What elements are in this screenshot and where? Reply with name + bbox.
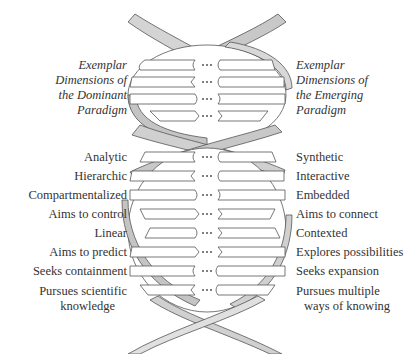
emerging-paradigm-header: Exemplar Dimensions of the Emerging Para…: [296, 58, 368, 118]
header-line: Dimensions of: [55, 73, 127, 88]
dominant-item: Analytic: [28, 148, 127, 167]
dominant-item: Compartmentalized: [28, 186, 127, 205]
emerging-item: Seeks expansion: [296, 262, 403, 281]
dominant-item: Hierarchic: [28, 167, 127, 186]
emerging-item: Contexted: [296, 224, 403, 243]
dominant-paradigm-header: Exemplar Dimensions of the Dominant Para…: [55, 58, 127, 118]
header-line: Exemplar: [55, 58, 127, 73]
dominant-item: Aims to predict: [28, 243, 127, 262]
header-line: Exemplar: [296, 58, 368, 73]
emerging-item: Interactive: [296, 167, 403, 186]
dominant-item: Aims to control: [28, 205, 127, 224]
header-line: the Emerging: [296, 88, 368, 103]
item-line: ways of knowing: [296, 299, 403, 314]
emerging-item: Synthetic: [296, 148, 403, 167]
header-line: the Dominant: [55, 88, 127, 103]
header-line: Paradigm: [296, 103, 368, 118]
header-line: Paradigm: [55, 103, 127, 118]
emerging-dimensions-list: Synthetic Interactive Embedded Aims to c…: [296, 148, 403, 314]
emerging-item: Explores possibilities: [296, 243, 403, 262]
dominant-dimensions-list: Analytic Hierarchic Compartmentalized Ai…: [28, 148, 127, 314]
emerging-item: Aims to connect: [296, 205, 403, 224]
item-line: Pursues scientific: [39, 284, 127, 298]
dominant-item: Linear: [28, 224, 127, 243]
item-line: Pursues multiple: [296, 284, 380, 298]
dominant-item: Seeks containment: [28, 262, 127, 281]
header-line: Dimensions of: [296, 73, 368, 88]
item-line: knowledge: [28, 299, 127, 314]
dominant-item: Pursues scientific knowledge: [28, 284, 127, 314]
emerging-item: Embedded: [296, 186, 403, 205]
emerging-item: Pursues multiple ways of knowing: [296, 284, 403, 314]
